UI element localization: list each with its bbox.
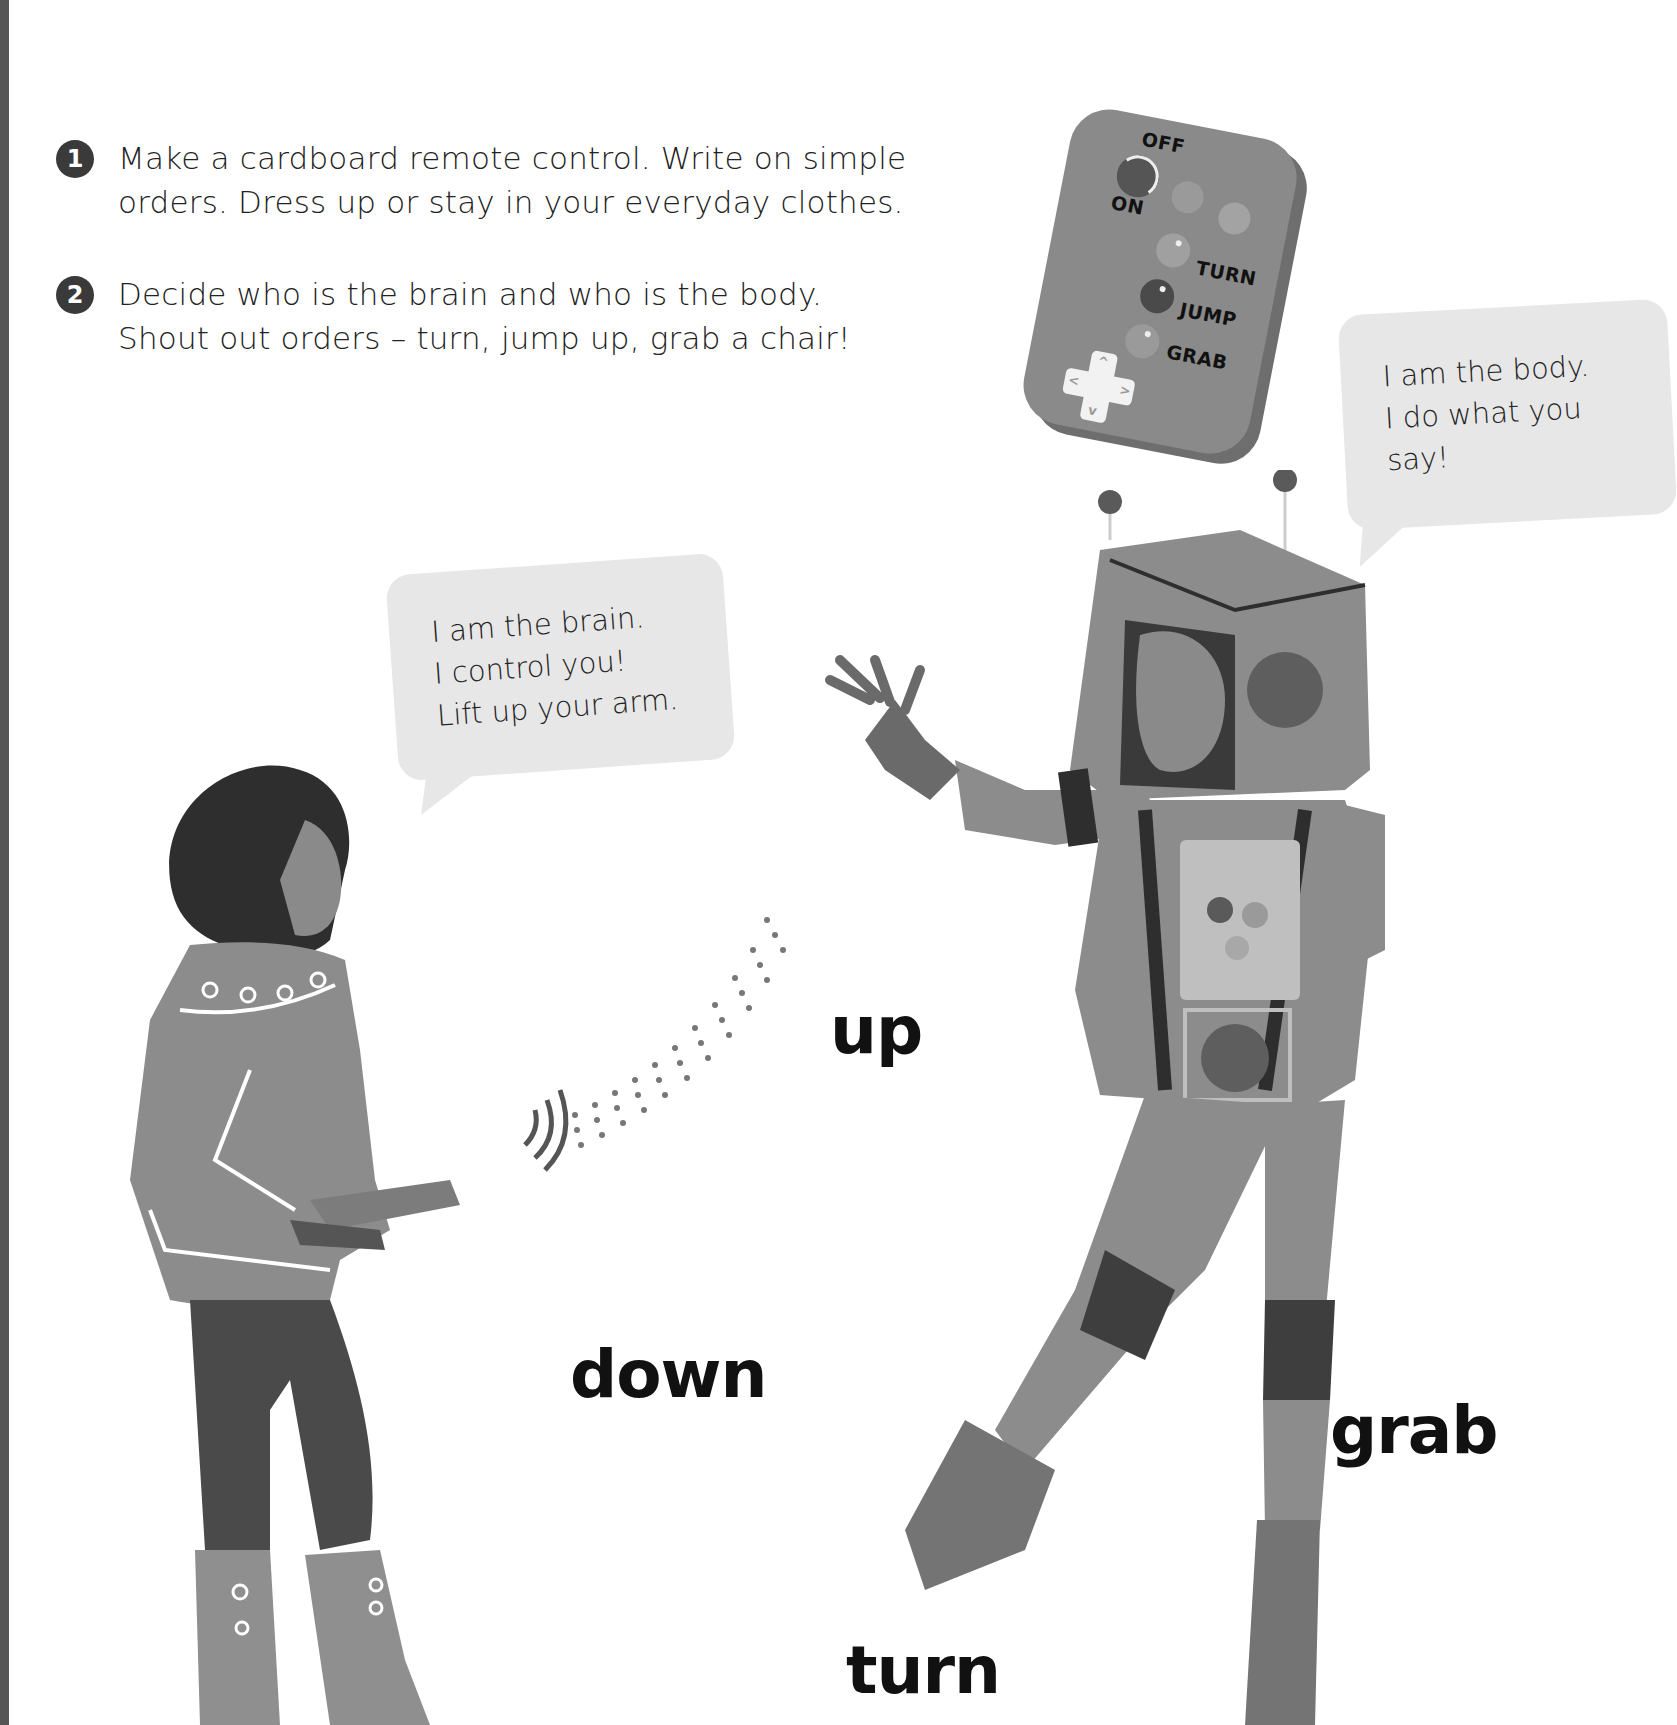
page-spine-edge bbox=[0, 0, 9, 1725]
action-word-grab: grab bbox=[1330, 1392, 1498, 1469]
brain-child-illustration bbox=[130, 760, 570, 1725]
speech-bubble-body: I am the body. I do what you say! bbox=[1338, 299, 1677, 531]
step-number-badge: 1 bbox=[56, 140, 94, 178]
instruction-step-2: 2 Decide who is the brain and who is the… bbox=[56, 272, 851, 360]
step-text: Make a cardboard remote control. Write o… bbox=[118, 136, 906, 224]
dpad-icon: ^ < > v bbox=[1058, 346, 1140, 428]
speech-bubble-text: I am the body. I do what you say! bbox=[1382, 345, 1595, 482]
instruction-step-1: 1 Make a cardboard remote control. Write… bbox=[56, 136, 906, 224]
step-text: Decide who is the brain and who is the b… bbox=[118, 272, 851, 360]
action-word-down: down bbox=[570, 1336, 767, 1413]
action-word-up: up bbox=[830, 992, 922, 1069]
body-robot-child-illustration bbox=[585, 470, 1385, 1725]
cardboard-remote-illustration: OFF ON TURN JUMP GRAB ^ < > v bbox=[1017, 103, 1309, 462]
step-number-badge: 2 bbox=[56, 276, 94, 314]
action-word-turn: turn bbox=[846, 1632, 1000, 1709]
